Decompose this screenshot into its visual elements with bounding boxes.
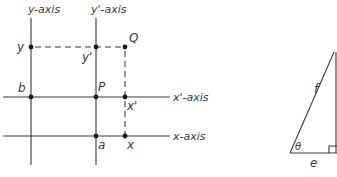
label-e: e (310, 156, 317, 170)
right-triangle: f e θ (290, 52, 337, 170)
x-prime-axis-label: x'-axis (172, 91, 209, 104)
label-y-prime: y' (81, 50, 92, 64)
label-a: a (98, 138, 105, 152)
label-f: f (314, 82, 320, 96)
point-P (94, 95, 99, 100)
label-b: b (18, 81, 26, 95)
label-y: y (16, 40, 25, 54)
label-Q: Q (129, 31, 138, 45)
point-y (29, 45, 34, 50)
y-axis-label: y-axis (27, 3, 60, 16)
label-theta: θ (295, 141, 301, 152)
label-P: P (98, 80, 106, 94)
x-axis-label: x-axis (172, 130, 206, 143)
label-x-prime: x' (126, 99, 137, 113)
point-b (29, 95, 34, 100)
y-prime-axis-label: y'-axis (90, 3, 127, 16)
triangle-hypotenuse (290, 52, 334, 153)
coordinate-translation-diagram: y-axis y'-axis x'-axis x-axis y y' Q b P… (0, 0, 337, 177)
point-Q (123, 45, 128, 50)
point-y-prime (94, 45, 99, 50)
label-x: x (126, 138, 135, 152)
